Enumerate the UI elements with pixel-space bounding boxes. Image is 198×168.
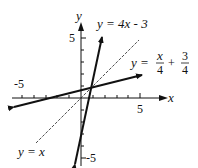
y-tick-neg5: -5 bbox=[86, 151, 96, 165]
x-tick-5: 5 bbox=[137, 102, 143, 116]
svg-text:x: x bbox=[156, 48, 163, 63]
svg-text:y =: y = bbox=[129, 55, 149, 70]
label-line-4x-3: y = 4x - 3 bbox=[95, 16, 148, 31]
y-axis-label: y bbox=[74, 8, 82, 23]
y-tick-5: 5 bbox=[69, 31, 75, 45]
x-tick-neg5: -5 bbox=[14, 77, 24, 91]
graph: y x -5 5 5 -5 y = 4x - 3 y = x 4 + 3 4 y… bbox=[0, 0, 198, 168]
line-y-equals-x bbox=[36, 40, 139, 143]
svg-text:3: 3 bbox=[182, 49, 188, 63]
svg-text:4: 4 bbox=[157, 63, 163, 77]
line-y-x-over-4 bbox=[14, 75, 142, 107]
label-line-x4: y = x 4 + 3 4 bbox=[129, 48, 189, 77]
svg-text:+: + bbox=[168, 56, 175, 70]
label-line-y-x: y = x bbox=[16, 144, 45, 159]
x-axis-label: x bbox=[167, 90, 174, 105]
svg-text:4: 4 bbox=[182, 63, 188, 77]
